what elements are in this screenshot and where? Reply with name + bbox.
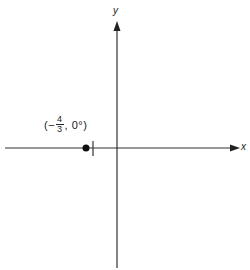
- fraction: 4 3: [56, 115, 64, 134]
- y-axis-arrow-icon: [114, 21, 121, 31]
- y-axis-label: y: [113, 5, 118, 16]
- point-label: (− 4 3 , 0°): [44, 115, 87, 134]
- plotted-point: [83, 145, 90, 152]
- point-label-open: (−: [44, 119, 55, 131]
- polar-coordinate-diagram: [0, 0, 250, 270]
- x-axis-label: x: [241, 141, 246, 152]
- point-label-close: , 0°): [65, 119, 88, 131]
- fraction-denominator: 3: [57, 125, 63, 134]
- x-axis-arrow-icon: [230, 145, 240, 152]
